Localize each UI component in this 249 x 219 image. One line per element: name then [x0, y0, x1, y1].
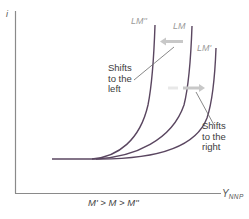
x-axis-label-subscript: NNP: [229, 193, 244, 200]
diagram-canvas: [0, 0, 249, 219]
lm-shift-diagram: i YNNP LM'' LM LM' Shifts to the left Sh…: [0, 0, 249, 219]
shift-left-annotation: Shifts to the left: [108, 63, 132, 95]
x-axis-label-main: Y: [222, 188, 229, 199]
lm-prime-label: LM': [197, 43, 211, 53]
lm-label: LM: [173, 21, 186, 31]
y-axis-label: i: [6, 9, 8, 19]
lm-double-prime-label: LM'': [131, 16, 147, 26]
x-axis-label: YNNP: [222, 189, 244, 202]
arrow-left-icon: [160, 38, 183, 46]
shift-right-annotation: Shifts to the right: [202, 121, 226, 153]
money-supply-caption: M' > M > M'': [88, 198, 139, 208]
